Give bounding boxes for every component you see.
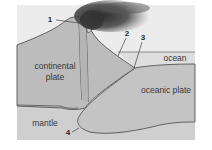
eruption-plume-top	[100, 2, 150, 14]
label-continental-line2: plate	[46, 72, 65, 82]
callout-2-number: 2	[125, 29, 130, 38]
callout-3-number: 3	[141, 33, 146, 42]
label-continental-line1: continental	[34, 61, 75, 71]
callout-1-number: 1	[48, 15, 53, 24]
label-ocean: ocean	[163, 53, 186, 63]
label-mantle: mantle	[32, 118, 58, 128]
subduction-diagram: continental plate oceanic plate ocean ma…	[0, 0, 212, 150]
callout-4-number: 4	[66, 128, 71, 137]
label-oceanic-plate: oceanic plate	[141, 85, 191, 95]
eruption-plume-core	[80, 10, 104, 30]
